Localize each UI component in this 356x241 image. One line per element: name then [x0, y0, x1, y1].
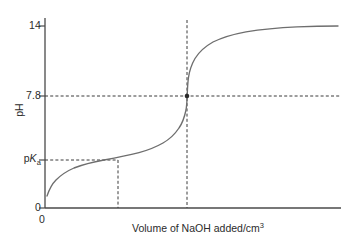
- y-tick-label-14: 14: [29, 19, 41, 31]
- y-tick-label-7-8: 7.8: [26, 89, 41, 101]
- x-axis-title: Volume of NaOH added/cm3: [88, 222, 308, 234]
- pka-k-glyph: K: [30, 152, 37, 164]
- y-axis-title: pH: [13, 93, 25, 127]
- x-axis-title-exponent: 3: [260, 221, 264, 230]
- y-tick-label-0: 0: [35, 201, 41, 213]
- y-tick-label-pka: pKa: [24, 152, 41, 164]
- x-tick-label-0: 0: [39, 213, 45, 225]
- x-axis-title-text: Volume of NaOH added/cm: [132, 222, 260, 234]
- titration-curve-figure: 14 7.8 pKa 0 0 pH Volume of NaOH added/c…: [0, 0, 356, 241]
- pka-a-subscript: a: [37, 158, 41, 167]
- plot-canvas: [0, 0, 356, 241]
- titration-curve-line: [47, 26, 338, 196]
- equivalence-point-marker: [185, 94, 190, 99]
